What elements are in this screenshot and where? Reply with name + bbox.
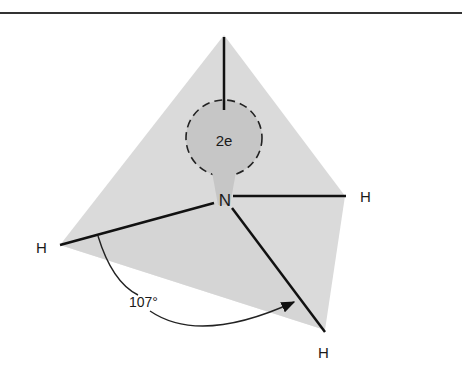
hydrogen-bottom-label: H — [318, 344, 329, 361]
hydrogen-right-label: H — [360, 188, 371, 205]
lone-pair-label: 2e — [216, 132, 233, 149]
central-atom-label: N — [219, 191, 231, 210]
bond-angle-label: 107° — [129, 294, 158, 310]
ammonia-diagram: 2e N H H H 107° — [0, 0, 462, 384]
hydrogen-left-label: H — [36, 239, 47, 256]
